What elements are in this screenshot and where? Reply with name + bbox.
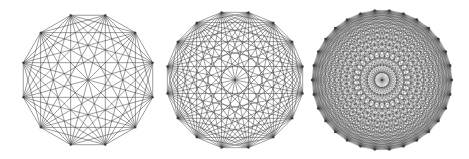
graph-vertex (388, 9, 390, 11)
graph-vertex (152, 61, 154, 63)
graph-vertex (428, 27, 430, 29)
graph-vertex (317, 107, 319, 109)
graph-vertex (247, 146, 249, 148)
graph-vertex (291, 117, 293, 119)
graph-vertex (312, 93, 314, 95)
graph-edges (167, 12, 302, 147)
graph-vertex (311, 79, 313, 81)
graph-vertex (39, 126, 41, 128)
graph-vertex (324, 120, 326, 122)
complete-graph-k30 (311, 9, 453, 151)
graph-vertex (104, 144, 106, 146)
graph-vertex (449, 64, 451, 66)
graph-vertex (373, 9, 375, 11)
graph-vertex (166, 65, 168, 67)
graph-vertex (272, 21, 274, 23)
graph-vertex (152, 96, 154, 98)
complete-graph-k16 (166, 11, 304, 149)
graph-vertex (346, 18, 348, 20)
figure-canvas (0, 0, 469, 159)
graph-vertex (220, 146, 222, 148)
graph-vertex (428, 131, 430, 133)
graph-vertex (176, 117, 178, 119)
graph-vertex (317, 50, 319, 52)
graph-vertex (402, 145, 404, 147)
graph-vertex (359, 145, 361, 147)
graph-vertex (451, 79, 453, 81)
graph-vertex (359, 12, 361, 14)
graph-vertex (69, 144, 71, 146)
graph-vertex (312, 64, 314, 66)
graph-vertex (416, 139, 418, 141)
graph-vertex (301, 65, 303, 67)
graph-vertex (388, 148, 390, 150)
graph-vertex (69, 14, 71, 16)
graph-vertex (445, 107, 447, 109)
graph-vertex (301, 92, 303, 94)
graph-vertex (334, 131, 336, 133)
graph-vertex (134, 31, 136, 33)
graph-vertex (104, 14, 106, 16)
graph-vertex (176, 40, 178, 42)
complete-graph-k12 (22, 14, 154, 146)
graph-vertex (334, 27, 336, 29)
graph-vertex (195, 136, 197, 138)
graph-vertex (272, 136, 274, 138)
complete-graphs-figure (0, 0, 469, 159)
graph-edges (23, 15, 152, 144)
graph-vertex (445, 50, 447, 52)
graph-vertex (247, 11, 249, 13)
graph-vertex (324, 38, 326, 40)
graph-vertex (166, 92, 168, 94)
graph-vertex (220, 11, 222, 13)
graph-vertex (22, 61, 24, 63)
graph-vertex (134, 126, 136, 128)
graph-vertex (291, 40, 293, 42)
graph-vertex (195, 21, 197, 23)
graph-vertex (22, 96, 24, 98)
graph-vertex (437, 120, 439, 122)
graph-vertex (449, 93, 451, 95)
graph-vertex (346, 139, 348, 141)
graph-edges (312, 10, 452, 149)
graph-vertex (437, 38, 439, 40)
graph-vertex (39, 31, 41, 33)
graph-vertex (402, 12, 404, 14)
graph-vertex (416, 18, 418, 20)
graph-vertex (373, 148, 375, 150)
